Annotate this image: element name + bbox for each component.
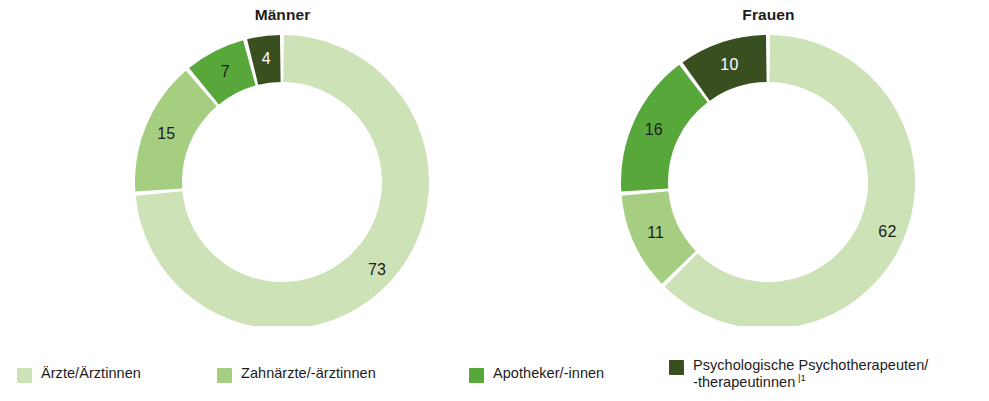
legend-item[interactable]: Ärzte/Ärztinnen (17, 365, 141, 383)
slice-value-label: 4 (262, 50, 271, 68)
legend-swatch-icon (669, 360, 684, 375)
legend: Ärzte/ÄrztinnenZahnärzte/-ärztinnenApoth… (0, 355, 989, 401)
slice-value-label: 62 (878, 223, 896, 241)
legend-item-label: Psychologische Psychotherapeuten/ -thera… (693, 357, 928, 391)
chart-title-maenner: Männer (135, 6, 430, 24)
slice-value-label: 7 (221, 63, 230, 81)
legend-item-label: Ärzte/Ärztinnen (41, 365, 141, 382)
slice-value-label: 73 (368, 261, 386, 279)
figure-root: Männer 731574 Frauen 62111610 Ärzte/Ärzt… (0, 0, 989, 401)
donut-chart-maenner: Männer 731574 (135, 0, 430, 340)
chart-title-frauen: Frauen (621, 6, 916, 24)
slice-value-label: 15 (157, 125, 175, 143)
donut-chart-frauen: Frauen 62111610 (621, 0, 916, 340)
slice-value-label: 10 (720, 56, 738, 74)
legend-item[interactable]: Apotheker/-innen (469, 365, 604, 383)
legend-swatch-icon (469, 368, 484, 383)
donut-maenner-graphic: 731574 (135, 32, 429, 326)
donut-svg-frauen (621, 32, 915, 326)
legend-swatch-icon (217, 368, 232, 383)
slice-value-label: 16 (645, 121, 663, 139)
donut-frauen-graphic: 62111610 (621, 32, 915, 326)
legend-item-label: Zahnärzte/-ärztinnen (241, 365, 376, 382)
donut-slice[interactable] (621, 65, 708, 192)
legend-swatch-icon (17, 368, 32, 383)
donut-slice[interactable] (135, 71, 217, 192)
slice-value-label: 11 (647, 224, 664, 242)
legend-item-label: Apotheker/-innen (493, 365, 604, 382)
donut-svg-maenner (135, 32, 429, 326)
legend-footnote-marker: |1 (795, 372, 806, 383)
legend-item[interactable]: Psychologische Psychotherapeuten/ -thera… (669, 357, 928, 391)
legend-item[interactable]: Zahnärzte/-ärztinnen (217, 365, 376, 383)
